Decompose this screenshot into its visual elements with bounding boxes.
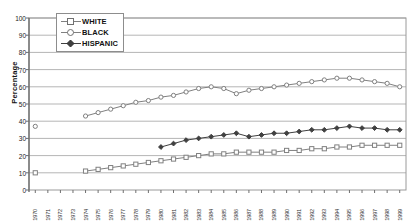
data-point-marker: [146, 98, 150, 102]
data-point-marker: [360, 78, 364, 82]
data-point-marker: [83, 169, 87, 173]
data-point-marker: [234, 131, 239, 136]
legend-label-black: BLACK: [82, 27, 109, 38]
y-axis-tick-labels: 0102030405060708090100: [4, 0, 26, 222]
data-point-marker: [209, 152, 213, 156]
data-point-marker: [398, 143, 402, 147]
data-point-marker: [372, 143, 376, 147]
x-tick-label: 1974: [83, 209, 89, 221]
data-point-marker: [335, 76, 339, 80]
data-point-marker: [360, 143, 364, 147]
x-tick-label: 1971: [45, 209, 51, 221]
series-line: [86, 78, 400, 116]
data-point-marker: [247, 88, 251, 92]
data-point-marker: [372, 126, 377, 131]
data-point-marker: [171, 157, 175, 161]
data-point-marker: [197, 86, 201, 90]
data-point-marker: [259, 133, 264, 138]
data-point-marker: [96, 111, 100, 115]
data-point-marker: [222, 152, 226, 156]
x-tick-label: 1993: [321, 209, 327, 221]
x-tick-label: 1990: [284, 209, 290, 221]
y-tick-label: 50: [4, 101, 26, 108]
data-point-marker: [309, 127, 314, 132]
x-tick-label: 1984: [208, 209, 214, 221]
data-point-marker: [109, 166, 113, 170]
legend-item-hispanic[interactable]: HISPANIC: [60, 38, 118, 49]
x-tick-label: 1996: [359, 209, 365, 221]
chart-legend: WHITE BLACK HISPANIC: [56, 13, 124, 52]
x-tick-label: 1977: [120, 209, 126, 221]
y-tick-label: 60: [4, 83, 26, 90]
data-point-marker: [347, 145, 351, 149]
data-point-marker: [247, 150, 251, 154]
data-point-marker: [398, 85, 402, 89]
data-point-marker: [272, 85, 276, 89]
x-tick-label: 1979: [145, 209, 151, 221]
x-tick-label: 1982: [183, 209, 189, 221]
x-tick-label: 1980: [158, 209, 164, 221]
data-point-marker: [171, 93, 175, 97]
data-point-marker: [297, 81, 301, 85]
data-point-marker: [335, 145, 339, 149]
data-point-marker: [385, 143, 389, 147]
filled-diamond-marker-icon: [60, 38, 82, 49]
legend-item-white[interactable]: WHITE: [60, 16, 118, 27]
data-point-marker: [285, 83, 289, 87]
data-point-marker: [297, 148, 301, 152]
x-tick-label: 1978: [133, 209, 139, 221]
x-tick-label: 1988: [258, 209, 264, 221]
data-point-marker: [397, 127, 402, 132]
series-white: [33, 143, 402, 175]
chart-title: [0, 0, 420, 6]
data-point-marker: [134, 100, 138, 104]
x-tick-label: 1989: [271, 209, 277, 221]
data-point-marker: [259, 150, 263, 154]
data-point-marker: [197, 154, 201, 158]
y-tick-label: 90: [4, 32, 26, 39]
data-point-marker: [347, 76, 351, 80]
x-tick-label: 1975: [95, 209, 101, 221]
data-point-marker: [234, 92, 238, 96]
line-chart: Percentage 0102030405060708090100 197019…: [0, 0, 420, 222]
data-point-marker: [322, 147, 326, 151]
y-tick-label: 70: [4, 66, 26, 73]
legend-label-white: WHITE: [82, 16, 107, 27]
x-tick-label: 1970: [32, 209, 38, 221]
data-point-marker: [385, 127, 390, 132]
data-point-marker: [171, 141, 176, 146]
data-point-marker: [33, 171, 37, 175]
data-point-marker: [284, 131, 289, 136]
data-point-marker: [159, 145, 164, 150]
series-black: [33, 76, 402, 128]
data-point-marker: [159, 159, 163, 163]
data-point-marker: [385, 81, 389, 85]
data-point-marker: [310, 147, 314, 151]
legend-label-hispanic: HISPANIC: [82, 38, 118, 49]
data-point-marker: [196, 136, 201, 141]
x-tick-label: 1983: [196, 209, 202, 221]
x-tick-label: 1981: [171, 209, 177, 221]
data-point-marker: [159, 95, 163, 99]
x-tick-label: 1986: [233, 209, 239, 221]
data-point-marker: [297, 129, 302, 134]
x-tick-label: 1998: [384, 209, 390, 221]
data-point-marker: [146, 160, 150, 164]
data-point-marker: [184, 90, 188, 94]
x-tick-label: 1994: [334, 209, 340, 221]
data-point-marker: [310, 80, 314, 84]
data-point-marker: [121, 104, 125, 108]
y-tick-label: 10: [4, 169, 26, 176]
x-tick-label: 1976: [108, 209, 114, 221]
x-tick-label: 1992: [309, 209, 315, 221]
legend-item-black[interactable]: BLACK: [60, 27, 118, 38]
open-square-marker-icon: [60, 16, 82, 27]
data-point-marker: [96, 167, 100, 171]
data-point-marker: [109, 107, 113, 111]
x-tick-label: 1973: [70, 209, 76, 221]
data-point-marker: [322, 127, 327, 132]
open-circle-marker-icon: [60, 27, 82, 38]
y-tick-label: 30: [4, 135, 26, 142]
data-point-marker: [322, 78, 326, 82]
data-point-marker: [285, 148, 289, 152]
